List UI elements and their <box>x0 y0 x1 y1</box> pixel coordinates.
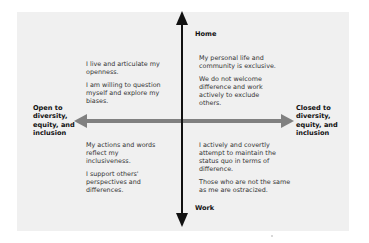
artifact-dot <box>271 235 273 237</box>
quadrant-top-right: My personal life and community is exclus… <box>199 54 281 112</box>
quadrant-bottom-left: My actions and words reflect my inclusiv… <box>86 141 162 199</box>
quadrant-top-left: I live and articulate my openness. I am … <box>86 60 170 110</box>
axis-label-home: Home <box>195 30 216 38</box>
axis-label-work: Work <box>195 204 214 212</box>
quadrant-bottom-right: I actively and covertly attempt to maint… <box>199 141 291 199</box>
axis-label-open: Open to diversity, equity, and inclusion <box>33 104 75 137</box>
horizontal-axis-arrow <box>74 114 294 128</box>
axis-label-closed: Closed to diversity, equity, and inclusi… <box>296 104 338 137</box>
